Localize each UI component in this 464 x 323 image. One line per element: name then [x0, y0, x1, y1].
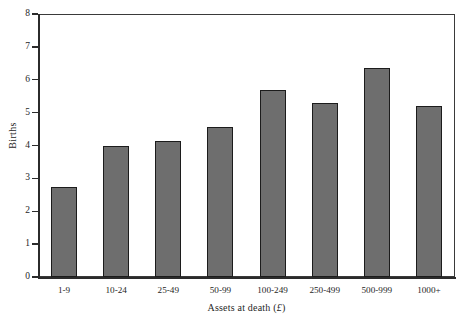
bar-chart-figure: 012345678 Births 1-910-2425-4950-99100-2…	[0, 0, 464, 323]
y-tick-label: 7	[2, 42, 30, 52]
bar	[103, 146, 129, 278]
x-tick-label: 1000+	[389, 285, 464, 295]
y-tick-label: 3	[2, 173, 30, 183]
x-axis-title-close: )	[282, 302, 286, 313]
y-tick-label: 0	[2, 272, 30, 282]
y-tick-label: 1	[2, 239, 30, 249]
x-axis-title: Assets at death (£)	[38, 302, 455, 313]
y-tick-label: 8	[2, 9, 30, 19]
bars-layer	[38, 14, 455, 277]
y-tick-label: 6	[2, 75, 30, 85]
bar	[312, 103, 338, 277]
bar	[155, 141, 181, 277]
bar	[416, 106, 442, 277]
x-axis-line	[38, 277, 456, 279]
x-axis-title-text: Assets at death (	[208, 302, 277, 313]
y-tick-label: 2	[2, 206, 30, 216]
bar	[51, 187, 77, 277]
y-axis-title: Births	[7, 106, 18, 166]
bar	[364, 68, 390, 277]
bar	[207, 127, 233, 277]
bar	[260, 90, 286, 277]
